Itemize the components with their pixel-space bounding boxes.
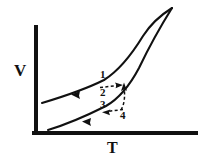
- y-axis-label: V: [14, 62, 27, 79]
- point-label-1: 1: [100, 69, 106, 80]
- lower-branch-arrowhead: [82, 118, 91, 126]
- x-axis-label: T: [107, 140, 118, 156]
- point-label-3: 3: [100, 99, 106, 110]
- axes-group: [34, 27, 196, 133]
- vt-phase-diagram: V T 1 2 3 4: [0, 0, 204, 164]
- point-label-2: 2: [100, 87, 106, 98]
- diagram-canvas: [0, 0, 204, 164]
- transition-left-arrowhead: [102, 110, 110, 116]
- point-label-4: 4: [120, 110, 126, 121]
- upper-branch-curve: [42, 8, 172, 103]
